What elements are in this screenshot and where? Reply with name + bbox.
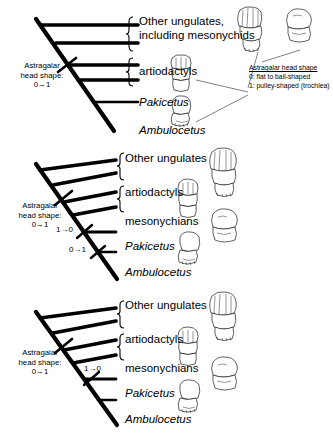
legend-state-1: 1: pulley-shaped (trochlea) [249, 82, 329, 91]
bracket-other-ungulates [126, 17, 133, 51]
cladogram-panel-3: Astragalar head shape: 0→1 1→0 Other ung… [0, 290, 333, 433]
leader-line-ball-bone [262, 50, 300, 62]
branch-artiodactyls-b [73, 355, 116, 363]
state-annotation-1-to-0: 1→0 [56, 225, 73, 234]
cladogram-panel-2: Astragalar head shape: 0→1 1→0 0→1 Other… [0, 145, 333, 290]
astragalus-bone-mesonychians [212, 209, 238, 242]
branch-other-ungulates-a [40, 160, 116, 170]
taxon-label-artiodactyls: artiodactyls [125, 333, 183, 346]
taxon-label-artiodactyls: artiodactyls [139, 65, 197, 78]
astragalus-bone-ball-reference [287, 9, 312, 42]
bracket-artiodactyls [117, 334, 124, 360]
taxon-label-artiodactyls: artiodactyls [125, 186, 183, 199]
leader-line-ambulocetus-bone [196, 95, 248, 122]
taxon-label-ambulocetus: Ambulocetus [125, 266, 191, 279]
taxon-label-other-ungulates: Other ungulates [125, 299, 207, 312]
astragalus-bone-other-ungulates [210, 148, 237, 197]
bracket-other-ungulates [117, 301, 124, 328]
root-annotation: Astragalar head shape: 0→1 [4, 348, 76, 377]
taxon-label-other-ungulates-line1: Other ungulates, [139, 15, 224, 27]
taxon-label-other-ungulates-line2: including mesonychids [139, 29, 255, 41]
taxon-label-ambulocetus: Ambulocetus [139, 124, 205, 137]
astragalus-bone-other-ungulates [210, 292, 237, 341]
taxon-label-pakicetus: Pakicetus [125, 387, 175, 400]
root-annotation-line2: head shape: [4, 358, 76, 368]
cladogram-panel-1: Astragalar head shape: 0→1 Other ungulat… [0, 0, 333, 145]
root-annotation-line3: 0→1 [4, 367, 76, 377]
root-annotation-line3: 0→1 [6, 80, 78, 90]
taxon-label-other-ungulates: Other ungulates, including mesonychids [139, 15, 264, 42]
astragalus-bone-mesonychians [212, 357, 238, 390]
root-annotation-line1: Astragalar [4, 348, 76, 358]
legend-state-0: 0: flat to ball-shaped [249, 73, 329, 82]
state-annotation-0-to-1: 0→1 [69, 245, 86, 254]
root-annotation-line1: Astragalar [4, 201, 76, 211]
legend-title: Astragalar head shape [249, 64, 329, 73]
bracket-other-ungulates [117, 153, 124, 180]
leader-line-artiodactyl-bone [196, 80, 248, 92]
taxon-label-mesonychians: mesonychians [125, 362, 199, 375]
root-annotation-line2: head shape: [4, 211, 76, 221]
bracket-artiodactyls [117, 186, 124, 212]
root-annotation-line1: Astragalar [6, 61, 78, 71]
astragalus-bone-pakicetus [178, 380, 200, 413]
bracket-artiodactyls [126, 58, 133, 86]
root-annotation-line2: head shape: [6, 71, 78, 81]
legend: Astragalar head shape 0: flat to ball-sh… [249, 64, 329, 90]
root-annotation: Astragalar head shape: 0→1 [6, 61, 78, 90]
branch-other-ungulates-b [53, 321, 116, 333]
taxon-label-other-ungulates: Other ungulates [125, 152, 207, 165]
state-annotation-1-to-0: 1→0 [84, 364, 101, 373]
branch-other-ungulates-b [53, 173, 116, 185]
taxon-label-pakicetus: Pakicetus [139, 96, 189, 109]
branch-artiodactyls-b [73, 207, 116, 215]
taxon-label-pakicetus: Pakicetus [125, 240, 175, 253]
astragalus-bone-pakicetus [178, 232, 200, 265]
taxon-label-ambulocetus: Ambulocetus [125, 413, 191, 426]
branch-other-ungulates-a [40, 308, 116, 318]
taxon-label-mesonychians: mesonychians [125, 215, 199, 228]
